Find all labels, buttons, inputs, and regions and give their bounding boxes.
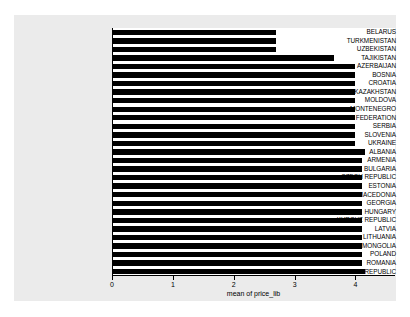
bar-row: SLOVAK REPUBLIC xyxy=(14,267,396,276)
bar-row: FYR MACEDONIA xyxy=(14,190,396,199)
bar xyxy=(112,260,362,265)
bar-category-label: TURKMENISTAN xyxy=(300,38,396,44)
bar-row: BULGARIA xyxy=(14,165,396,174)
x-axis-title: mean of price_lib xyxy=(112,290,395,298)
bar-row: ALBANIA xyxy=(14,148,396,157)
bar xyxy=(112,38,276,43)
bar xyxy=(112,72,355,77)
bar-row: MOLDOVA xyxy=(14,96,396,105)
bar-row: TAJIKISTAN xyxy=(14,54,396,63)
bar xyxy=(112,81,355,86)
bar xyxy=(112,175,362,180)
bar xyxy=(112,141,355,146)
bar-row: CROATIA xyxy=(14,79,396,88)
bar-row: POLAND xyxy=(14,250,396,259)
bar-row: MONGOLIA xyxy=(14,242,396,251)
bar-row: GEORGIA xyxy=(14,199,396,208)
bar-row: KYRGYZ REPUBLIC xyxy=(14,216,396,225)
bar-row: KAZAKHSTAN xyxy=(14,88,396,97)
x-tick-mark xyxy=(234,276,235,280)
bar-row: HUNGARY xyxy=(14,208,396,217)
bar-row: TURKMENISTAN xyxy=(14,37,396,46)
bar xyxy=(112,124,355,129)
x-tick-label: 3 xyxy=(293,281,297,289)
chart-figure: BELARUSTURKMENISTANUZBEKISTANTAJIKISTANA… xyxy=(14,15,396,301)
bar xyxy=(112,55,334,60)
bar xyxy=(112,149,365,154)
bar-row: AZERBAIJAN xyxy=(14,62,396,71)
x-tick-label: 0 xyxy=(110,281,114,289)
bar xyxy=(112,235,362,240)
bar-category-label: UZBEKISTAN xyxy=(300,46,396,52)
bar xyxy=(112,201,362,206)
bar xyxy=(112,158,362,163)
bar xyxy=(112,89,355,94)
bar-row: BOSNIA xyxy=(14,71,396,80)
bar xyxy=(112,132,355,137)
bar-row: ROMANIA xyxy=(14,259,396,268)
bar xyxy=(112,226,362,231)
bar-row: UZBEKISTAN xyxy=(14,45,396,54)
x-tick-mark xyxy=(355,276,356,280)
bar xyxy=(112,98,355,103)
x-tick-label: 2 xyxy=(232,281,236,289)
bar-row: CZECH REPUBLIC xyxy=(14,173,396,182)
bar-row: ESTONIA xyxy=(14,182,396,191)
bar xyxy=(112,30,276,35)
bar-row: SERBIA xyxy=(14,122,396,131)
x-tick-mark xyxy=(112,276,113,280)
bar-row: LATVIA xyxy=(14,225,396,234)
bar xyxy=(112,107,355,112)
x-tick-mark xyxy=(173,276,174,280)
bar-row: UKRAINE xyxy=(14,139,396,148)
bar xyxy=(112,243,362,248)
bar xyxy=(112,115,355,120)
bar xyxy=(112,269,365,274)
x-tick-label: 1 xyxy=(171,281,175,289)
bar-row: SLOVENIA xyxy=(14,131,396,140)
bar xyxy=(112,166,362,171)
bar xyxy=(112,252,362,257)
bar-row: LITHUANIA xyxy=(14,233,396,242)
x-tick-mark xyxy=(295,276,296,280)
bar xyxy=(112,209,362,214)
bar xyxy=(112,47,276,52)
bar-row: RUSSIAN FEDERATION xyxy=(14,114,396,123)
bar xyxy=(112,183,362,188)
bar-row: MONTENEGRO xyxy=(14,105,396,114)
bar xyxy=(112,218,362,223)
bar-row: BELARUS xyxy=(14,28,396,37)
bar-category-label: BELARUS xyxy=(300,29,396,35)
x-tick-label: 4 xyxy=(353,281,357,289)
bar xyxy=(112,192,362,197)
bar-row: ARMENIA xyxy=(14,156,396,165)
bar xyxy=(112,64,355,69)
